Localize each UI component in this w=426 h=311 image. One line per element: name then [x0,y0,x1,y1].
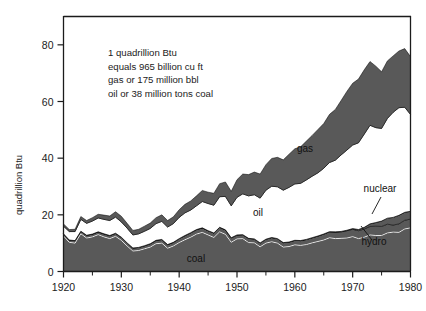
series-label-coal: coal [187,253,205,264]
conversion-note-line: equals 965 billion cu ft [108,61,203,72]
y-axis-title-text: quadrillion Btu [13,155,24,215]
x-tick-label: 1970 [341,281,365,293]
y-tick-label: 0 [48,266,54,278]
y-tick-label: 20 [42,209,54,221]
chart-canvas: 020406080 1920193019401950196019701980 q… [0,0,426,311]
conversion-note-line: oil or 38 million tons coal [108,88,213,99]
y-tick-label: 80 [42,39,54,51]
conversion-note-line: gas or 175 million bbl [108,74,199,85]
x-tick-label: 1960 [283,281,307,293]
x-tick-label: 1950 [225,281,249,293]
y-tick-label: 60 [42,96,54,108]
energy-consumption-area-chart: 020406080 1920193019401950196019701980 q… [0,0,426,311]
x-tick-label: 1940 [167,281,191,293]
x-tick-label: 1980 [399,281,423,293]
conversion-note-line: 1 quadrillion Btu [108,47,177,58]
series-label-gas: gas [297,143,313,154]
series-label-hydro: hydro [361,236,386,247]
x-tick-label: 1930 [110,281,134,293]
y-tick-label: 40 [42,152,54,164]
y-axis-title: quadrillion Btu [13,155,24,215]
series-label-nuclear: nuclear [364,183,397,194]
series-label-oil: oil [253,207,263,218]
x-tick-label: 1920 [52,281,76,293]
